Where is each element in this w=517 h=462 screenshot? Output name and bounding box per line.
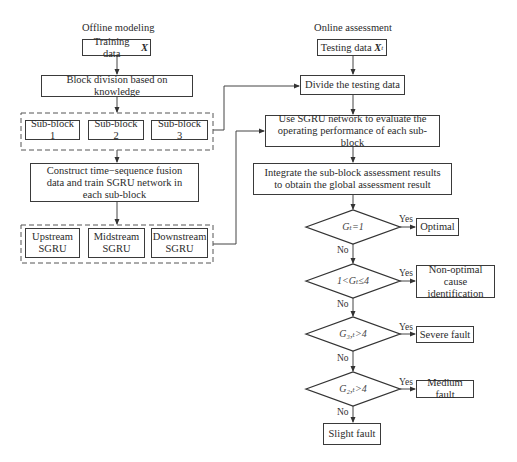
upstream-line1: Upstream bbox=[32, 231, 73, 243]
outcome-medium-fault: Medium fault bbox=[416, 380, 474, 398]
testing-data-box: Testing data Xt bbox=[317, 39, 387, 56]
condition-1: Gₜ=1 bbox=[342, 221, 363, 233]
training-data-label: Training data bbox=[85, 36, 138, 60]
no-label-2: No bbox=[337, 299, 349, 309]
testing-data-subscript: t bbox=[381, 42, 383, 54]
training-data-box: Training data X bbox=[82, 39, 151, 56]
sub-block-3: Sub-block 3 bbox=[151, 120, 208, 140]
condition-3: G₃,ₜ>4 bbox=[339, 328, 366, 340]
upstream-line2: SGRU bbox=[38, 243, 66, 255]
use-sgru-box: Use SGRU network to evaluate the operati… bbox=[265, 115, 440, 147]
outcome-severe-fault: Severe fault bbox=[416, 326, 474, 343]
no-label-3: No bbox=[337, 353, 349, 363]
midstream-line2: SGRU bbox=[102, 243, 130, 255]
midstream-sgru-box: Midstream SGRU bbox=[88, 228, 145, 258]
online-title: Online assessment bbox=[310, 22, 396, 34]
testing-data-var: X bbox=[374, 42, 381, 54]
downstream-sgru-box: Downstream SGRU bbox=[151, 228, 208, 258]
upstream-sgru-box: Upstream SGRU bbox=[25, 228, 80, 258]
outcome-optimal: Optimal bbox=[416, 218, 459, 236]
yes-label-1: Yes bbox=[399, 214, 413, 224]
no-label-1: No bbox=[337, 245, 349, 255]
training-data-var: X bbox=[141, 42, 148, 54]
downstream-line2: SGRU bbox=[165, 243, 193, 255]
no-label-4: No bbox=[337, 407, 349, 417]
offline-title: Offline modeling bbox=[82, 22, 152, 34]
sub-block-2: Sub-block 2 bbox=[88, 120, 144, 140]
downstream-line1: Downstream bbox=[153, 231, 207, 243]
yes-label-2: Yes bbox=[399, 268, 413, 278]
divide-testing-box: Divide the testing data bbox=[300, 75, 405, 95]
midstream-line1: Midstream bbox=[94, 231, 140, 243]
outcome-non-optimal: Non-optimal cause identification bbox=[416, 265, 495, 298]
testing-data-label: Testing data bbox=[321, 42, 372, 54]
sub-block-1: Sub-block 1 bbox=[25, 120, 80, 140]
integrate-box: Integrate the sub-block assessment resul… bbox=[253, 163, 452, 195]
condition-2: 1<Gₜ≤4 bbox=[337, 275, 369, 287]
construct-train-box: Construct time−sequence fusion data and … bbox=[30, 163, 199, 202]
outcome-slight-fault: Slight fault bbox=[323, 423, 381, 445]
yes-label-4: Yes bbox=[399, 377, 413, 387]
block-division-box: Block division based on knowledge bbox=[41, 75, 193, 97]
yes-label-3: Yes bbox=[399, 322, 413, 332]
condition-4: G₂,ₜ>4 bbox=[339, 383, 366, 395]
